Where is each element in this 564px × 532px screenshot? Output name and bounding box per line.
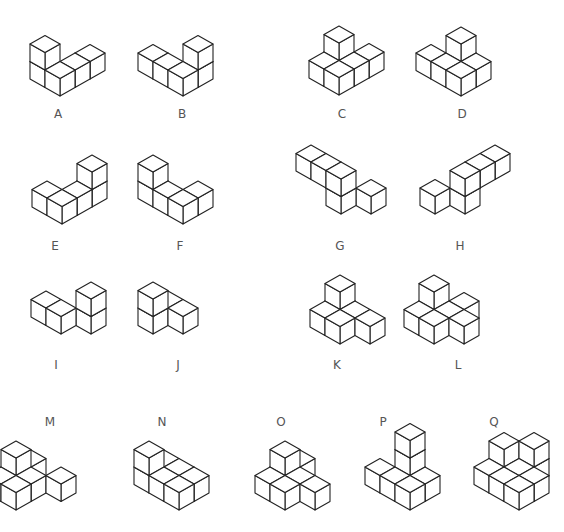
figure-label-c: C: [338, 108, 346, 120]
isometric-cube-figures: [0, 0, 564, 532]
figure-label-b: B: [178, 108, 186, 120]
figure-c: [309, 26, 384, 95]
figure-label-l: L: [455, 359, 462, 371]
figure-label-g: G: [335, 240, 344, 252]
figure-label-d: D: [457, 108, 466, 120]
figure-label-j: J: [176, 359, 180, 371]
figure-h: [420, 145, 510, 214]
figure-label-m: M: [45, 416, 55, 428]
figure-f: [138, 155, 213, 224]
figure-a: [30, 36, 105, 97]
figure-q: [474, 433, 549, 511]
figure-m: [0, 441, 76, 510]
figure-label-o: O: [276, 416, 285, 428]
figure-n: [134, 441, 209, 510]
figure-label-i: I: [54, 359, 58, 371]
figure-label-n: N: [158, 416, 167, 428]
figure-l: [404, 275, 479, 344]
figure-o: [255, 441, 330, 510]
figure-b: [138, 36, 213, 97]
figure-j: [138, 282, 198, 334]
figure-i: [31, 282, 106, 334]
figure-g: [296, 145, 386, 214]
figure-label-h: H: [455, 240, 464, 252]
figure-e: [32, 155, 107, 224]
figure-d: [416, 27, 491, 96]
figure-label-e: E: [51, 240, 59, 252]
figure-k: [310, 275, 385, 344]
figure-label-q: Q: [489, 416, 498, 428]
figure-label-p: P: [379, 416, 386, 428]
figure-p: [365, 424, 440, 511]
figure-label-k: K: [333, 359, 341, 371]
figure-label-f: F: [177, 240, 184, 252]
figure-label-a: A: [54, 108, 62, 120]
